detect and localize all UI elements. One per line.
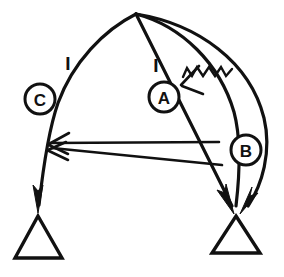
arrowhead-left-support-icon <box>33 185 43 213</box>
node-c[interactable]: C <box>25 84 55 114</box>
force-diagram-svg: I I C A B <box>0 0 284 277</box>
diagram-canvas: I I C A B <box>0 0 284 277</box>
tick-label-right: I <box>153 55 158 76</box>
force-line-lower <box>52 148 222 165</box>
support-left-triangle <box>15 216 62 258</box>
tick-label-left: I <box>65 53 70 74</box>
node-b-label: B <box>240 142 252 161</box>
force-line-upper <box>51 142 219 143</box>
node-a[interactable]: A <box>149 82 179 112</box>
member-middle-line <box>136 14 232 206</box>
member-left-curve <box>39 14 136 205</box>
node-a-label: A <box>158 89 170 108</box>
node-c-label: C <box>34 91 46 110</box>
node-b[interactable]: B <box>231 135 261 165</box>
support-right-triangle <box>212 216 260 253</box>
arrowhead-right-inner-icon <box>217 184 234 214</box>
